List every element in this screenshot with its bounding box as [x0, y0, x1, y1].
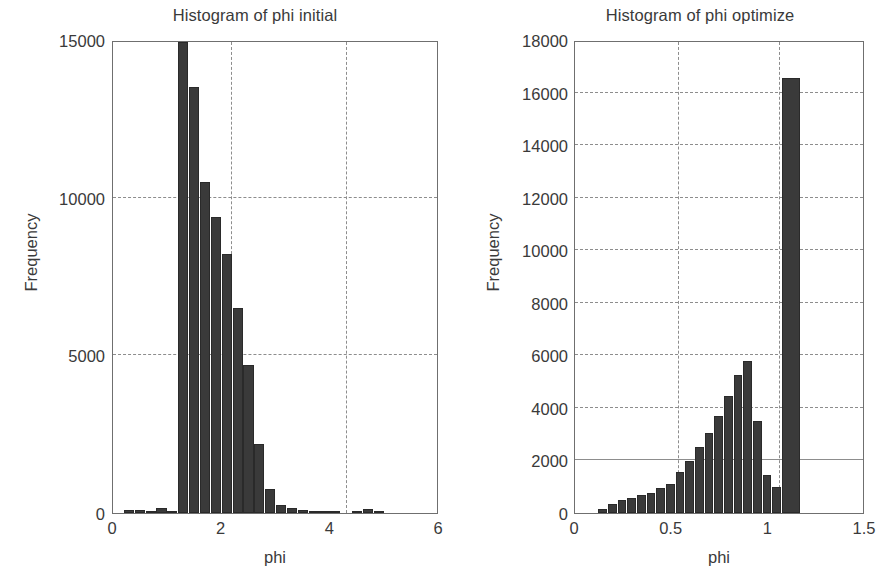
histogram-bar [265, 489, 275, 513]
histogram-bar [685, 461, 694, 513]
histogram-bar [676, 472, 685, 513]
histogram-bar [243, 365, 253, 513]
plot-area-left [112, 41, 438, 514]
plot-area-right [574, 41, 864, 514]
y-tick-label: 6000 [468, 347, 568, 366]
histogram-bar [598, 509, 607, 513]
histogram-bar [695, 447, 704, 513]
histogram-bar [330, 511, 340, 513]
histogram-bar [233, 308, 243, 513]
y-tick-label: 16000 [468, 84, 568, 103]
histogram-bar [656, 488, 665, 513]
histogram-bar [309, 511, 319, 513]
y-tick-label: 12000 [468, 189, 568, 208]
x-tick-label: 4 [299, 519, 359, 538]
histogram-bar [647, 493, 656, 513]
histogram-bar [287, 508, 297, 513]
histogram-bar [637, 495, 646, 513]
y-tick-label: 10000 [468, 242, 568, 261]
y-axis-label-left: Frequency [22, 193, 41, 313]
histogram-bar [363, 509, 373, 513]
histogram-bar [753, 421, 762, 513]
histogram-bar [374, 511, 384, 513]
histogram-bar [222, 254, 232, 513]
histogram-bar [608, 504, 617, 513]
x-tick-label: 0 [544, 519, 604, 538]
y-tick-label: 18000 [468, 32, 568, 51]
y-tick-label: 14000 [468, 137, 568, 156]
y-tick-label: 8000 [468, 294, 568, 313]
histogram-bar [352, 511, 362, 513]
histogram-bar [124, 510, 134, 513]
y-tick-label: 2000 [468, 452, 568, 471]
x-tick-label: 1 [737, 519, 797, 538]
histogram-bar [167, 511, 177, 513]
histogram-bar [319, 511, 329, 513]
histogram-bar [772, 487, 781, 513]
histogram-bar [178, 42, 188, 513]
histogram-bar [782, 78, 801, 513]
histogram-bar [298, 510, 308, 513]
histogram-bar [276, 505, 286, 513]
histogram-bar [743, 361, 752, 513]
histogram-bar [200, 182, 210, 513]
x-tick-label: 1.5 [834, 519, 894, 538]
histogram-bar [666, 484, 675, 513]
chart-panel-phi-optimize: Histogram of phi optimize Frequency 0200… [455, 0, 895, 588]
histogram-bar [705, 433, 714, 513]
y-tick-label: 4000 [468, 399, 568, 418]
histogram-bar [146, 511, 156, 513]
histogram-figure: Histogram of phi initial Frequency 05000… [0, 0, 895, 588]
histogram-bar [627, 498, 636, 513]
histogram-bar [618, 500, 627, 513]
y-tick-label: 10000 [5, 189, 105, 208]
chart-panel-phi-initial: Histogram of phi initial Frequency 05000… [0, 0, 455, 588]
histogram-bar [714, 416, 723, 513]
chart-title-left: Histogram of phi initial [60, 6, 450, 25]
y-tick-label: 5000 [5, 347, 105, 366]
chart-title-right: Histogram of phi optimize [510, 6, 890, 25]
x-tick-label: 0.5 [641, 519, 701, 538]
x-tick-label: 0 [82, 519, 142, 538]
histogram-bar [254, 444, 264, 513]
x-axis-label-left: phi [112, 548, 438, 567]
histogram-bar [734, 375, 743, 513]
bar-series-right [575, 42, 863, 513]
histogram-bar [135, 510, 145, 513]
histogram-bar [211, 217, 221, 513]
histogram-bar [724, 396, 733, 513]
bar-series-left [113, 42, 437, 513]
histogram-bar [189, 87, 199, 513]
x-tick-label: 2 [191, 519, 251, 538]
histogram-bar [763, 475, 772, 513]
y-tick-label: 15000 [5, 32, 105, 51]
x-axis-label-right: phi [574, 548, 864, 567]
histogram-bar [156, 508, 166, 513]
